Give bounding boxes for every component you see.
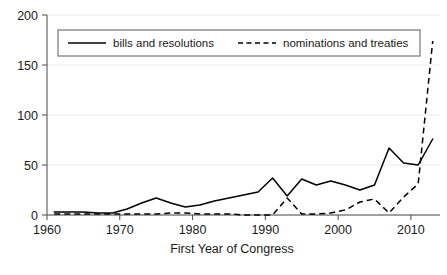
x-axis: 196019701980199020002010 [33,215,440,237]
series-nominations-and-treaties [54,41,432,215]
line-chart: 050100150200 196019701980199020002010 bi… [0,0,447,275]
y-axis-tick-label: 100 [17,109,38,123]
y-axis-tick-label: 0 [31,209,38,223]
legend-label-nominations: nominations and treaties [283,37,409,49]
x-axis-tick-label: 1960 [33,223,61,237]
y-axis-tick-label: 200 [17,9,38,23]
chart-container: 050100150200 196019701980199020002010 bi… [0,0,447,275]
x-axis-tick-label: 2000 [324,223,352,237]
x-axis-tick-label: 1990 [251,223,279,237]
legend-label-bills: bills and resolutions [113,37,214,49]
data-series-group [54,41,432,215]
legend: bills and resolutions nominations and tr… [58,30,420,56]
y-axis-tick-label: 150 [17,59,38,73]
x-axis-tick-label: 1970 [106,223,134,237]
x-axis-tick-label: 1980 [179,223,207,237]
x-axis-title: First Year of Congress [170,242,294,256]
x-axis-tick-label: 2010 [397,223,425,237]
y-axis: 050100150200 [17,9,47,223]
series-bills-and-resolutions [54,139,432,213]
y-axis-tick-label: 50 [24,159,38,173]
